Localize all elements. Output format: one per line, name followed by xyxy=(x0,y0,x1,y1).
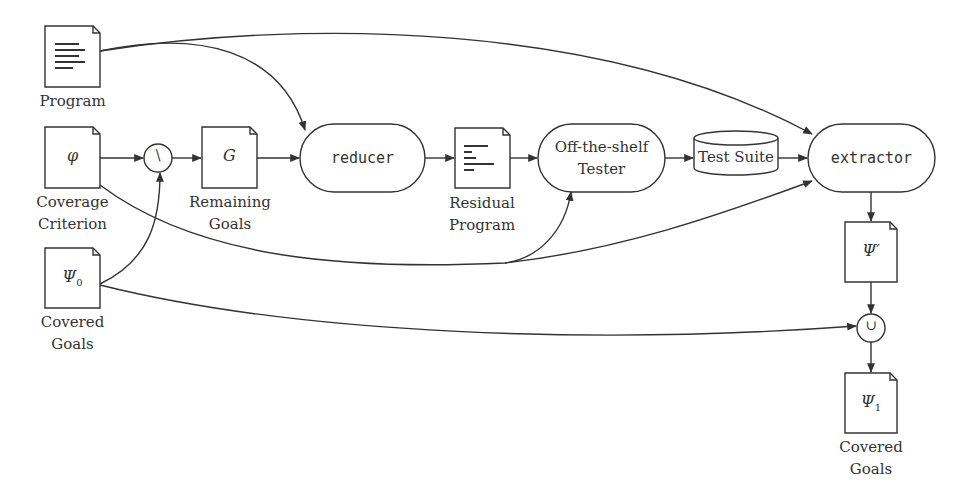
covered-goals-out-label: Covered Goals xyxy=(820,436,922,480)
psi-prime-symbol: Ψ′ xyxy=(845,241,897,260)
tester-label: Off-the-shelf Tester xyxy=(538,136,665,180)
coverage-criterion-label: Coverage Criterion xyxy=(20,191,125,235)
residual-program-label: Residual Program xyxy=(432,192,532,236)
test-suite-label: Test Suite xyxy=(694,148,778,166)
psi1-symbol: Ψ1 xyxy=(845,392,897,413)
covered-goals-in-label: Covered Goals xyxy=(20,311,125,355)
remaining-goals-label: Remaining Goals xyxy=(180,191,280,235)
setminus-symbol: \ xyxy=(144,147,172,163)
g-symbol: G xyxy=(202,146,257,165)
extractor-label: extractor xyxy=(808,149,935,167)
reducer-label: reducer xyxy=(300,149,425,167)
program-document-icon xyxy=(45,26,100,87)
diagram-canvas xyxy=(0,0,972,501)
union-symbol: ∪ xyxy=(857,317,885,333)
psi0-symbol: Ψ0 xyxy=(45,267,100,288)
residual-program-document-icon xyxy=(455,128,510,188)
phi-symbol: φ xyxy=(45,146,100,165)
program-label: Program xyxy=(25,90,120,112)
